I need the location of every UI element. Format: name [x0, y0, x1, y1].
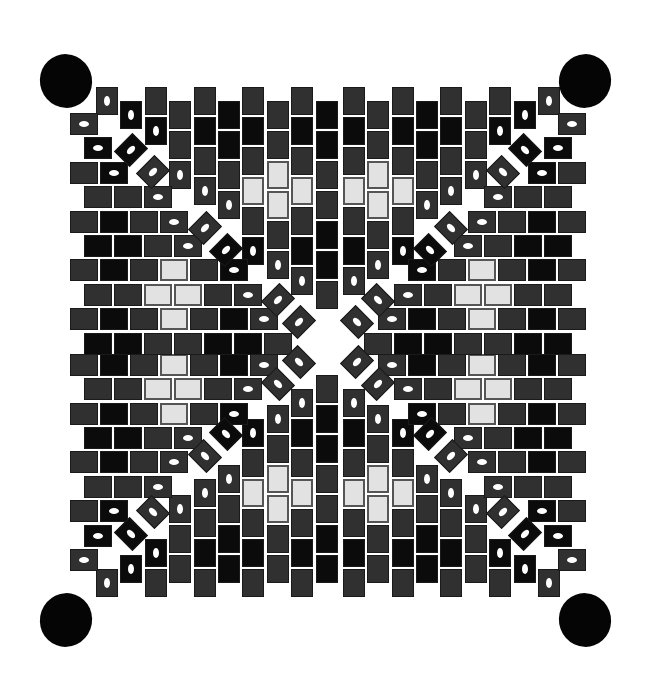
bead-top	[367, 191, 389, 219]
bead-hole-icon	[202, 186, 208, 196]
bead-bottom	[392, 569, 414, 597]
bead-left	[100, 451, 128, 473]
bead-bottom	[96, 569, 118, 597]
bead-hole-icon	[125, 144, 136, 155]
bead-left	[70, 113, 98, 135]
bead-right	[528, 403, 556, 425]
bead-left	[204, 284, 232, 306]
bead-diagonal	[136, 495, 170, 529]
bead-bottom	[242, 509, 264, 537]
bead-bottom	[291, 509, 313, 537]
bead-top	[194, 87, 216, 115]
bead-bottom	[367, 465, 389, 493]
bead-right	[498, 259, 526, 281]
bead-hole-icon	[522, 564, 528, 574]
bead-left	[70, 354, 98, 376]
bead-right	[468, 451, 496, 473]
bead-hole-icon	[497, 126, 503, 136]
bead-hole-icon	[226, 200, 232, 210]
bead-left	[70, 259, 98, 281]
bead-right	[498, 451, 526, 473]
bead-top	[367, 131, 389, 159]
bead-top	[367, 101, 389, 129]
bead-bottom	[316, 375, 338, 403]
bead-bottom	[367, 525, 389, 553]
bead-left	[190, 403, 218, 425]
bead-right	[558, 113, 586, 135]
bead-hole-icon	[177, 504, 183, 514]
bead-bottom	[267, 495, 289, 523]
bead-top	[343, 147, 365, 175]
bead-left	[220, 354, 248, 376]
bead-top	[440, 87, 462, 115]
bead-right	[558, 403, 586, 425]
bead-bottom	[343, 539, 365, 567]
bead-left	[130, 308, 158, 330]
bead-right	[544, 186, 572, 208]
bead-right	[544, 333, 572, 355]
bead-top	[316, 101, 338, 129]
bead-top	[440, 147, 462, 175]
bead-right	[514, 235, 542, 257]
bead-hole-icon	[93, 533, 103, 539]
bead-right	[484, 378, 512, 400]
bead-hole-icon	[169, 459, 179, 465]
bead-bottom	[291, 389, 313, 417]
bead-bottom	[416, 525, 438, 553]
bead-hole-icon	[153, 126, 159, 136]
bead-hole-icon	[272, 294, 283, 305]
bead-top	[267, 161, 289, 189]
bead-hole-icon	[275, 414, 281, 424]
bead-left	[144, 284, 172, 306]
bead-bottom	[120, 555, 142, 583]
bead-right	[454, 284, 482, 306]
bead-left	[114, 476, 142, 498]
bead-bottom	[316, 465, 338, 493]
bead-bottom	[343, 569, 365, 597]
bead-bottom	[416, 465, 438, 493]
bead-hole-icon	[417, 267, 427, 273]
bead-bottom	[440, 479, 462, 507]
bead-bottom	[316, 435, 338, 463]
bead-left	[114, 186, 142, 208]
bead-hole-icon	[183, 435, 193, 441]
bead-hole-icon	[553, 533, 563, 539]
bead-top	[169, 161, 191, 189]
bead-left	[70, 162, 98, 184]
bead-top	[392, 117, 414, 145]
bead-hole-icon	[79, 121, 89, 127]
bead-hole-icon	[497, 506, 508, 517]
bead-right	[484, 427, 512, 449]
bead-top	[291, 147, 313, 175]
bead-top	[267, 221, 289, 249]
bead-left	[70, 308, 98, 330]
bead-right	[454, 378, 482, 400]
bead-top	[392, 147, 414, 175]
bead-top	[218, 191, 240, 219]
bead-hole-icon	[519, 528, 530, 539]
bead-right	[558, 549, 586, 571]
bead-hole-icon	[153, 548, 159, 558]
bead-bottom	[218, 555, 240, 583]
bead-bottom	[291, 569, 313, 597]
bead-right	[514, 378, 542, 400]
bead-hole-icon	[387, 362, 397, 368]
bead-top	[316, 251, 338, 279]
bead-hole-icon	[243, 292, 253, 298]
bead-bottom	[392, 479, 414, 507]
bead-bottom	[538, 569, 560, 597]
bead-left	[174, 378, 202, 400]
bead-bottom	[218, 495, 240, 523]
bead-top	[316, 131, 338, 159]
bead-bottom	[367, 435, 389, 463]
bead-bottom	[316, 405, 338, 433]
bead-hole-icon	[220, 428, 231, 439]
bead-hole-icon	[463, 435, 473, 441]
bead-right	[514, 333, 542, 355]
bead-right	[468, 308, 496, 330]
bead-top	[465, 101, 487, 129]
bead-left	[84, 476, 112, 498]
bead-hole-icon	[259, 316, 269, 322]
bead-right	[528, 500, 556, 522]
bead-right	[468, 403, 496, 425]
